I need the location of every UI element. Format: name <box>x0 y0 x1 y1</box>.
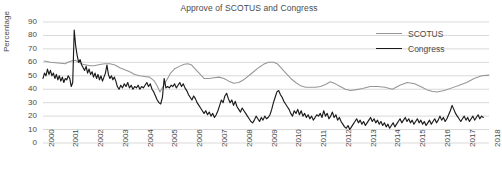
x-tick-2017: 2017 <box>468 129 477 147</box>
y-tick-80: 80 <box>11 31 37 39</box>
x-tick-2008: 2008 <box>245 129 254 147</box>
x-tick-2016: 2016 <box>443 129 452 147</box>
x-tick-2002: 2002 <box>96 129 105 147</box>
x-tick-2004: 2004 <box>146 129 155 147</box>
x-tick-2000: 2000 <box>47 129 56 147</box>
x-tick-2007: 2007 <box>220 129 229 147</box>
x-tick-2003: 2003 <box>121 129 130 147</box>
legend-item-scotus[interactable]: SCOTUS <box>376 26 444 41</box>
x-tick-2011: 2011 <box>319 130 328 147</box>
y-tick-0: 0 <box>11 139 37 147</box>
legend-label: SCOTUS <box>408 29 443 39</box>
legend-item-congress[interactable]: Congress <box>376 41 444 56</box>
x-tick-2009: 2009 <box>270 129 279 147</box>
x-tick-2012: 2012 <box>344 129 353 147</box>
x-tick-2015: 2015 <box>418 129 427 147</box>
x-tick-2014: 2014 <box>393 129 402 147</box>
y-tick-60: 60 <box>11 58 37 66</box>
y-tick-20: 20 <box>11 112 37 120</box>
x-tick-2005: 2005 <box>170 129 179 147</box>
y-tick-70: 70 <box>11 45 37 53</box>
x-tick-2018: 2018 <box>493 129 502 147</box>
y-tick-30: 30 <box>11 99 37 107</box>
legend-swatch-line-icon <box>376 48 402 49</box>
x-tick-2013: 2013 <box>369 129 378 147</box>
y-tick-50: 50 <box>11 72 37 80</box>
legend-label: Congress <box>408 44 444 54</box>
x-tick-2010: 2010 <box>294 129 303 147</box>
legend-swatch-line-icon <box>376 33 402 34</box>
y-tick-90: 90 <box>11 18 37 26</box>
y-tick-40: 40 <box>11 85 37 93</box>
chart-legend: SCOTUSCongress <box>376 26 444 56</box>
x-tick-2001: 2001 <box>71 129 80 147</box>
x-tick-2006: 2006 <box>195 129 204 147</box>
y-tick-10: 10 <box>11 126 37 134</box>
